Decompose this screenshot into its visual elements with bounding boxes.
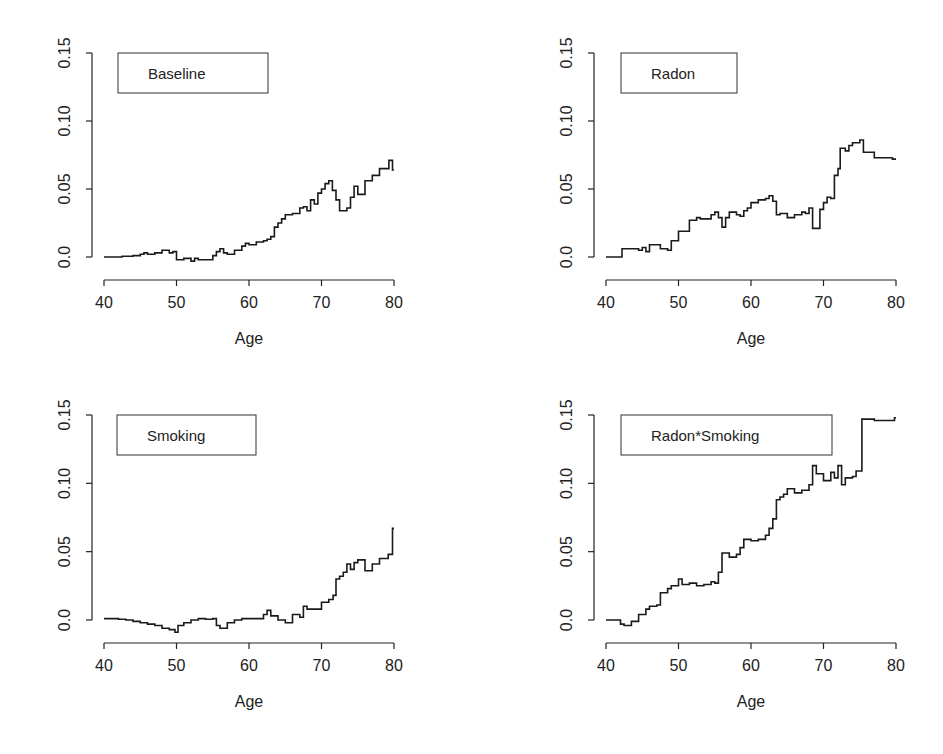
x-axis: 4050607080: [95, 643, 403, 674]
y-axis: 0.00.050.100.15: [558, 399, 594, 631]
x-tick-label: 80: [385, 294, 403, 311]
y-tick-label: 0.0: [56, 609, 73, 631]
y-tick-label: 0.10: [558, 468, 575, 499]
chart-svg: 0.00.050.100.154050607080AgeRadon: [502, 0, 943, 392]
x-tick-label: 50: [670, 294, 688, 311]
x-tick-label: 70: [313, 294, 331, 311]
y-axis: 0.00.050.100.15: [558, 37, 594, 268]
legend-label: Smoking: [147, 427, 205, 444]
y-tick-label: 0.10: [56, 468, 73, 499]
x-tick-label: 70: [313, 657, 331, 674]
panel-radon-smoking: 0.00.050.100.154050607080AgeRadon*Smokin…: [502, 362, 943, 754]
y-axis: 0.00.050.100.15: [56, 399, 92, 631]
chart-svg: 0.00.050.100.154050607080AgeRadon*Smokin…: [502, 362, 943, 754]
x-tick-label: 60: [742, 294, 760, 311]
y-tick-label: 0.0: [56, 246, 73, 268]
y-tick-label: 0.05: [56, 536, 73, 567]
x-tick-label: 80: [385, 657, 403, 674]
legend-label: Radon: [651, 65, 695, 82]
x-tick-label: 40: [95, 294, 113, 311]
x-tick-label: 40: [597, 657, 615, 674]
chart-svg: 0.00.050.100.154050607080AgeBaseline: [0, 0, 441, 392]
x-tick-label: 50: [168, 657, 186, 674]
y-tick-label: 0.10: [558, 105, 575, 136]
x-axis-label: Age: [235, 693, 264, 710]
y-tick-label: 0.15: [558, 399, 575, 430]
x-tick-label: 60: [240, 657, 258, 674]
step-line: [606, 140, 896, 257]
y-axis: 0.00.050.100.15: [56, 37, 92, 268]
x-tick-label: 40: [95, 657, 113, 674]
y-tick-label: 0.05: [56, 173, 73, 204]
legend-box: Baseline: [118, 53, 268, 93]
step-line: [104, 160, 394, 261]
chart-svg: 0.00.050.100.154050607080AgeSmoking: [0, 362, 441, 754]
y-tick-label: 0.05: [558, 173, 575, 204]
x-tick-label: 50: [168, 294, 186, 311]
x-axis-label: Age: [235, 330, 264, 347]
legend-box: Radon: [621, 53, 737, 93]
y-tick-label: 0.05: [558, 536, 575, 567]
x-tick-label: 80: [887, 657, 905, 674]
x-tick-label: 60: [240, 294, 258, 311]
panel-radon: 0.00.050.100.154050607080AgeRadon: [502, 0, 943, 392]
y-tick-label: 0.15: [558, 37, 575, 68]
x-tick-label: 80: [887, 294, 905, 311]
x-tick-label: 70: [815, 657, 833, 674]
legend-box: Radon*Smoking: [621, 415, 832, 455]
x-axis-label: Age: [737, 330, 766, 347]
x-tick-label: 40: [597, 294, 615, 311]
y-tick-label: 0.0: [558, 246, 575, 268]
x-axis: 4050607080: [597, 280, 905, 311]
y-tick-label: 0.0: [558, 609, 575, 631]
x-axis: 4050607080: [597, 643, 905, 674]
panel-smoking: 0.00.050.100.154050607080AgeSmoking: [0, 362, 441, 754]
x-tick-label: 50: [670, 657, 688, 674]
panel-baseline: 0.00.050.100.154050607080AgeBaseline: [0, 0, 441, 392]
legend-label: Radon*Smoking: [651, 427, 759, 444]
x-tick-label: 70: [815, 294, 833, 311]
y-tick-label: 0.10: [56, 105, 73, 136]
legend-label: Baseline: [148, 65, 206, 82]
x-axis-label: Age: [737, 693, 766, 710]
legend-box: Smoking: [117, 415, 256, 455]
x-tick-label: 60: [742, 657, 760, 674]
y-tick-label: 0.15: [56, 37, 73, 68]
y-tick-label: 0.15: [56, 399, 73, 430]
step-line: [104, 528, 394, 632]
x-axis: 4050607080: [95, 280, 403, 311]
